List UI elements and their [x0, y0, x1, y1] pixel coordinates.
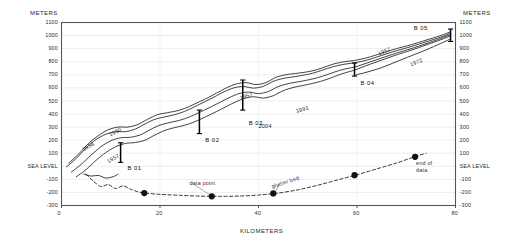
- y-tick-right-700: 700: [460, 71, 470, 77]
- y-tick-right-900: 900: [460, 45, 470, 51]
- data-point-4: [351, 172, 357, 178]
- series-terminus-tongue-1: [84, 174, 118, 178]
- series-glacier-bed: [86, 153, 426, 196]
- note-data-point: data point: [190, 180, 216, 186]
- data-point-1: [141, 190, 147, 196]
- y-tick-left-200: 200: [48, 137, 58, 143]
- y-tick-right-600: 600: [460, 84, 470, 90]
- data-point-2: [209, 193, 215, 199]
- y-tick-left-sea-level: SEA LEVEL: [27, 163, 58, 169]
- y-tick-right-800: 800: [460, 58, 470, 64]
- data-point-5: [412, 154, 418, 160]
- y-tick-left-900: 900: [48, 45, 58, 51]
- y-tick-left-400: 400: [48, 111, 58, 117]
- y-tick-left-100: 100: [48, 150, 58, 156]
- x-tick-40: 40: [255, 210, 261, 216]
- y-tick-right-500: 500: [460, 98, 470, 104]
- y-tick-left-1100: 1100: [46, 19, 58, 25]
- glacier-profile-figure: METERS METERS KILOMETERS -300-200-100SEA…: [0, 0, 516, 242]
- note-end-of-data-line2: data: [416, 167, 427, 173]
- y-tick-left-300: 300: [48, 124, 58, 130]
- y-tick-right--200: -200: [460, 189, 472, 195]
- y-tick-left--200: -200: [46, 189, 58, 195]
- y-tick-right-1000: 1000: [460, 32, 473, 38]
- borehole-label-b-03: B 03: [249, 120, 263, 126]
- x-tick-60: 60: [353, 210, 359, 216]
- borehole-label-b-01: B 01: [127, 165, 141, 171]
- y-tick-left--300: -300: [46, 202, 58, 208]
- y-tick-right-400: 400: [460, 111, 470, 117]
- borehole-label-b-05: B 05: [414, 25, 428, 31]
- note-end-of-data-line1: end of: [416, 160, 432, 166]
- y-tick-left--100: -100: [46, 176, 58, 182]
- series-surface-1991: [71, 35, 450, 173]
- y-tick-left-500: 500: [48, 98, 58, 104]
- y-tick-right-sea-level: SEA LEVEL: [460, 163, 491, 169]
- y-tick-right--300: -300: [460, 202, 472, 208]
- x-tick-20: 20: [156, 210, 162, 216]
- y-tick-right-200: 200: [460, 137, 470, 143]
- y-tick-right-100: 100: [460, 150, 470, 156]
- y-tick-left-600: 600: [48, 84, 58, 90]
- y-tick-right-300: 300: [460, 124, 470, 130]
- x-tick-0: 0: [58, 210, 61, 216]
- y-tick-left-700: 700: [48, 71, 58, 77]
- y-tick-right--100: -100: [460, 176, 472, 182]
- y-tick-left-1000: 1000: [45, 32, 58, 38]
- x-tick-80: 80: [452, 210, 458, 216]
- borehole-label-b-04: B 04: [360, 80, 374, 86]
- series-surface-2004: [76, 36, 450, 177]
- y-tick-right-1100: 1100: [460, 19, 472, 25]
- borehole-label-b-02: B 02: [205, 137, 219, 143]
- y-tick-left-800: 800: [48, 58, 58, 64]
